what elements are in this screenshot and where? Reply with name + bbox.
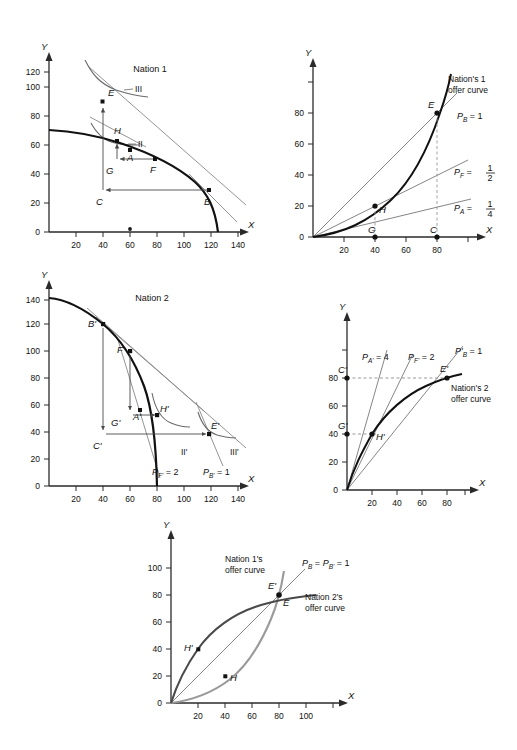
y-axis-label: Y	[305, 47, 312, 58]
y-tick-0: 0	[157, 698, 162, 708]
x-tick-80: 80	[152, 494, 162, 504]
y-axis-arrow	[310, 58, 317, 67]
offer-curve-nation2	[171, 595, 316, 703]
point-Hprime-marker	[369, 431, 374, 436]
price-label-pbprime: PB' = 1	[203, 467, 230, 479]
x-tick-120: 120	[204, 240, 218, 250]
point-label-Eprime: E'	[268, 580, 277, 591]
y-axis-label: Y	[339, 301, 346, 312]
y-ticks: 0 20 40 60 80 100	[148, 563, 171, 708]
y-tick-60: 60	[31, 400, 41, 410]
y-tick-80: 80	[153, 590, 163, 600]
point-H-marker	[372, 203, 377, 208]
y-tick-120: 120	[26, 319, 40, 329]
y-tick-0: 0	[299, 232, 304, 242]
y-tick-40: 40	[295, 170, 305, 180]
y-tick-20: 20	[31, 198, 41, 208]
x-axis-arrow	[470, 487, 479, 494]
price-label-pf: PF = 1 2	[454, 163, 495, 183]
x-tick-40: 40	[98, 240, 108, 250]
axis-marker-dot	[128, 227, 132, 231]
point-label-Cprime: C'	[93, 440, 103, 451]
x-tick-120: 120	[204, 494, 218, 504]
point-Eprime-marker	[444, 375, 449, 380]
panel-nation2-offer-curve: Y X 0 20 40 60 80 20 40 60 80 E' H' C' G…	[258, 262, 517, 516]
x-tick-20: 20	[71, 240, 81, 250]
x-tick-80: 80	[432, 245, 442, 255]
x-axis-label: X	[485, 224, 493, 235]
x-tick-80: 80	[274, 711, 284, 721]
panel-nation2-ppf: Y X 0 20 40 60 80 100 120 140 20 40 60 8…	[0, 262, 258, 516]
price-label-paprime: PA' = 4	[362, 352, 389, 364]
price-ray-pf	[313, 160, 468, 237]
y-tick-40: 40	[153, 644, 163, 654]
point-label-E: E	[108, 87, 115, 98]
point-H-marker	[115, 139, 119, 143]
point-label-Aprime: A'	[132, 411, 142, 422]
svg-text:PA' = 4: PA' = 4	[362, 352, 389, 364]
point-F-marker	[153, 157, 157, 161]
x-tick-60: 60	[417, 498, 427, 508]
point-label-Cprime: C'	[338, 364, 348, 375]
point-label-F: F	[150, 164, 157, 175]
y-tick-120: 120	[26, 67, 40, 77]
offer-curve-label-line2: offer curve	[451, 394, 491, 404]
point-label-Hprime: H'	[376, 431, 386, 442]
x-axis-label: X	[347, 690, 355, 701]
indifference-curve-ii-prime	[152, 393, 190, 427]
indifference-label-iii-prime: III'	[230, 447, 239, 457]
y-tick-40: 40	[329, 429, 339, 439]
leader-iii	[124, 89, 133, 90]
panel-nation1-offer-curve: Y X 0 20 40 60 80 20 40 60 80 E H G	[258, 22, 517, 262]
y-tick-100: 100	[26, 346, 40, 356]
offer-curve-nation2	[347, 374, 462, 490]
y-tick-60: 60	[295, 139, 305, 149]
price-ray-equilibrium	[171, 569, 305, 703]
x-axis-arrow	[477, 234, 486, 241]
x-axis-label: X	[247, 219, 255, 230]
y-axis-arrow	[46, 280, 53, 289]
y-axis-arrow	[46, 52, 53, 61]
svg-text:PA =: PA =	[454, 203, 472, 215]
x-axis-label: X	[247, 473, 255, 484]
x-ticks: 20 40 60 80 100	[193, 703, 333, 721]
price-label-equilibrium: PB = PB' = 1	[302, 558, 349, 570]
x-tick-20: 20	[339, 245, 349, 255]
offer-curve-label-line2: offer curve	[448, 85, 488, 95]
svg-text:4: 4	[487, 209, 492, 219]
point-label-C: C	[430, 224, 437, 235]
point-Cprime-marker	[344, 375, 349, 380]
y-tick-20: 20	[31, 454, 41, 464]
point-Gprime-marker	[344, 431, 349, 436]
y-tick-80: 80	[31, 111, 41, 121]
nation2-curve-label-line2: offer curve	[305, 603, 345, 613]
point-label-H: H	[230, 672, 237, 683]
y-tick-0: 0	[35, 227, 40, 237]
point-label-G: G	[368, 224, 375, 235]
nation1-curve-label-line1: Nation 1's	[225, 554, 263, 564]
panel-equilibrium-offer-curves: Y X 0 20 40 60 80 100 20 40 60 80 100 E'…	[120, 516, 410, 750]
x-tick-60: 60	[125, 494, 135, 504]
point-label-Fprime: F'	[117, 344, 126, 355]
point-label-Gprime: G'	[111, 417, 121, 428]
x-tick-100: 100	[299, 711, 313, 721]
point-Bprime-marker	[101, 322, 105, 326]
y-tick-60: 60	[31, 140, 41, 150]
point-Hprime-marker	[155, 413, 159, 417]
offer-curve-label-line1: Nation's 1	[448, 74, 486, 84]
point-label-E: E	[428, 99, 435, 110]
y-tick-20: 20	[329, 457, 339, 467]
y-axis-arrow	[168, 530, 175, 539]
point-B-marker	[207, 188, 211, 192]
x-tick-60: 60	[247, 711, 257, 721]
y-ticks: 0 20 40 60 80 100 120 140	[26, 295, 49, 491]
point-label-B: B	[204, 196, 211, 207]
svg-text:PB = PB' = 1: PB = PB' = 1	[302, 558, 349, 570]
x-tick-60: 60	[125, 240, 135, 250]
y-tick-0: 0	[35, 481, 40, 491]
x-tick-40: 40	[98, 494, 108, 504]
y-tick-100: 100	[148, 563, 162, 573]
point-G-marker	[372, 234, 377, 239]
panel-title-nation2: Nation 2	[135, 293, 169, 303]
point-equilibrium-marker	[276, 592, 282, 598]
